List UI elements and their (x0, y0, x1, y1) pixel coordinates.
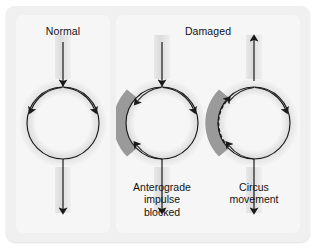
caption-line-2: movement (208, 193, 300, 205)
panel-normal: Normal (16, 15, 110, 233)
caption-line-3: blocked (116, 206, 208, 218)
caption-anterograde-blocked: Anterograde impulse blocked (116, 181, 208, 218)
panel-damaged: Damaged (116, 15, 300, 233)
normal-diagram (16, 15, 110, 233)
caption-line-2: impulse (116, 193, 208, 205)
caption-line-1: Anterograde (116, 181, 208, 193)
caption-line-1: Circus (208, 181, 300, 193)
figure-canvas: Normal (6, 6, 310, 242)
caption-circus-movement: Circus movement (208, 181, 300, 206)
